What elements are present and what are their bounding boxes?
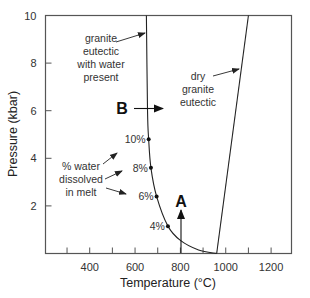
- annot-line: granite: [182, 83, 214, 95]
- x-axis-ticks: 40060080010001200: [67, 248, 283, 273]
- annot-line: dry: [191, 70, 206, 82]
- y-tick-label: 10: [24, 10, 36, 22]
- water-dot: [155, 194, 159, 198]
- y-tick-label: 4: [30, 152, 36, 164]
- phase-diagram: 40060080010001200 246810 Temperature (°C…: [0, 0, 310, 298]
- annot-line: % water: [62, 160, 100, 172]
- water-dot: [166, 224, 170, 228]
- point-a-label: A: [175, 193, 187, 210]
- annot-line: in melt: [66, 186, 97, 198]
- annot-line: granite: [85, 32, 117, 44]
- y-axis-ticks: 246810: [24, 10, 51, 212]
- annot-line: eutectic: [83, 45, 119, 57]
- arrow-icon: [213, 69, 239, 76]
- y-tick-label: 2: [30, 200, 36, 212]
- point-b-arrow: B: [116, 100, 163, 117]
- water-percent-label: 10%: [125, 133, 146, 145]
- water-dissolved-annotation: % water dissolved in melt: [59, 153, 126, 198]
- arrow-icon: [116, 33, 145, 42]
- point-b-label: B: [116, 100, 128, 117]
- water-dot: [147, 137, 151, 141]
- annot-line: with water: [76, 58, 125, 70]
- arrow-icon: [105, 171, 122, 179]
- x-tick-label: 800: [171, 261, 189, 273]
- x-tick-label: 400: [81, 261, 99, 273]
- x-tick-label: 600: [126, 261, 144, 273]
- y-tick-label: 8: [30, 57, 36, 69]
- water-percent-label: 8%: [133, 162, 148, 174]
- wet-eutectic-annotation: granite eutectic with water present: [76, 32, 145, 83]
- x-tick-label: 1000: [214, 261, 238, 273]
- water-percent-label: 6%: [138, 190, 153, 202]
- dry-eutectic-line: [217, 16, 249, 254]
- annot-line: eutectic: [180, 96, 216, 108]
- x-tick-label: 1200: [259, 261, 283, 273]
- water-percent-labels: 10%8%6%4%: [125, 133, 165, 232]
- annot-line: dissolved: [59, 173, 103, 185]
- water-content-markers: [147, 137, 170, 228]
- x-axis-title: Temperature (°C): [120, 276, 216, 290]
- arrow-icon: [103, 153, 117, 164]
- water-percent-label: 4%: [150, 220, 165, 232]
- water-dot: [149, 166, 153, 170]
- annot-line: present: [83, 71, 118, 83]
- y-axis-title: Pressure (kbar): [6, 91, 20, 177]
- y-tick-label: 6: [30, 105, 36, 117]
- arrow-icon: [106, 188, 126, 194]
- dry-eutectic-annotation: dry granite eutectic: [180, 69, 239, 108]
